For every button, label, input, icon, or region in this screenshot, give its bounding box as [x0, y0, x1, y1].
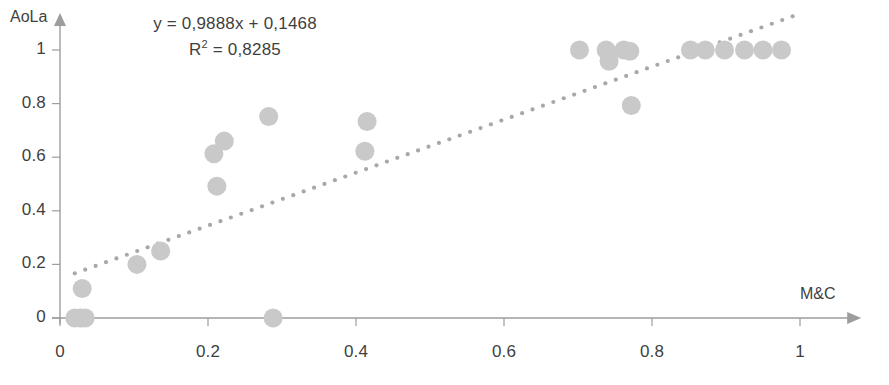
trendline-dot [770, 22, 774, 26]
trendline-dot [260, 204, 264, 208]
trendline-dot [343, 174, 347, 178]
data-point [76, 309, 95, 328]
trendline-dot [281, 197, 285, 201]
x-axis-arrow [847, 312, 861, 324]
data-point [620, 42, 639, 61]
trendline-dot [551, 100, 555, 104]
regression-equation: y = 0,9888x + 0,1468 [120, 12, 350, 37]
data-point [715, 41, 734, 60]
data-point [754, 41, 773, 60]
trendline-dot [104, 260, 108, 264]
trendline-dot [322, 182, 326, 186]
data-point [358, 112, 377, 131]
trendline-dot [541, 104, 545, 108]
x-tick-label: 1 [770, 342, 830, 362]
trendline-dot [385, 159, 389, 163]
trendline-dot [530, 107, 534, 111]
trendline-dot [302, 189, 306, 193]
trendline-dot [208, 223, 212, 227]
data-point [151, 242, 170, 261]
trendline-dot [114, 256, 118, 260]
trendline-dot [177, 234, 181, 238]
x-tick-label: 0.8 [622, 342, 682, 362]
trendline-dot [291, 193, 295, 197]
x-axis-title: M&C [800, 285, 836, 303]
trendline-dot [759, 25, 763, 29]
trendline-dot [666, 59, 670, 63]
y-tick-label: 0.4 [0, 200, 46, 220]
scatter-chart: AoLa M&C y = 0,9888x + 0,1468 R2 = 0,828… [0, 0, 889, 385]
y-tick-label: 0 [0, 307, 46, 327]
trendline-dot [94, 264, 98, 268]
data-point [264, 309, 283, 328]
x-tick-label: 0 [30, 342, 90, 362]
r-squared-value: = 0,8285 [208, 39, 281, 58]
trendline-dot [749, 29, 753, 33]
trendline-dot [73, 271, 77, 275]
x-tick-label: 0.4 [326, 342, 386, 362]
trendline-dot [374, 163, 378, 167]
data-point [570, 41, 589, 60]
data-point [215, 132, 234, 151]
trendline-dot [437, 141, 441, 145]
trendline-dot [655, 63, 659, 67]
data-point [207, 177, 226, 196]
trendline-dot [791, 14, 795, 18]
trendline-dot [166, 238, 170, 242]
trendline-dot [520, 111, 524, 115]
data-points-group [65, 41, 791, 328]
data-point [73, 279, 92, 298]
trendline-dot [406, 152, 410, 156]
x-tick-label: 0.6 [474, 342, 534, 362]
trendline-dot [593, 85, 597, 89]
y-axis-arrow [54, 13, 66, 26]
trendline-dot [728, 37, 732, 41]
data-point [127, 255, 146, 274]
trendline-dot [312, 186, 316, 190]
trendline-dot [478, 126, 482, 130]
y-tick-label: 0.2 [0, 253, 46, 273]
y-tick-label: 0.6 [0, 146, 46, 166]
trendline-dot [333, 178, 337, 182]
y-tick-label: 0.8 [0, 93, 46, 113]
trendline-dot [416, 148, 420, 152]
trendline-dot [489, 122, 493, 126]
trendline-dot [218, 219, 222, 223]
trendline-dot [614, 78, 618, 82]
r-squared-label: R [189, 39, 201, 58]
y-axis-title: AoLa [10, 8, 47, 26]
r-squared-line: R2 = 0,8285 [120, 37, 350, 62]
trendline-dot [250, 208, 254, 212]
data-point [772, 41, 791, 60]
trendline-dot [426, 145, 430, 149]
data-point [622, 96, 641, 115]
trendline-dot [187, 230, 191, 234]
trendline-dot [634, 70, 638, 74]
trendline-dot [624, 74, 628, 78]
tick-marks-group [52, 50, 800, 326]
trendline-dot [447, 137, 451, 141]
trendline-dot [229, 215, 233, 219]
trendline-dot [676, 55, 680, 59]
trendline-dot [562, 96, 566, 100]
data-point [259, 107, 278, 126]
trendline-dot [582, 89, 586, 93]
regression-annotation: y = 0,9888x + 0,1468 R2 = 0,8285 [120, 12, 350, 62]
data-point [696, 41, 715, 60]
trendline-dot [645, 66, 649, 70]
data-point [735, 41, 754, 60]
trendline-dot [270, 200, 274, 204]
y-tick-label: 1 [0, 39, 46, 59]
trendline-dot [510, 115, 514, 119]
trendline-dot [468, 130, 472, 134]
trendline-dot [499, 119, 503, 123]
trendline-dot [738, 33, 742, 37]
trendline-dot [198, 227, 202, 231]
trendline-dot [146, 245, 150, 249]
data-point [355, 142, 374, 161]
trendline-dot [458, 133, 462, 137]
trendline-dot [780, 18, 784, 22]
trendline-dot [135, 249, 139, 253]
trendline-dot [83, 268, 87, 272]
trendline-dot [125, 253, 129, 257]
